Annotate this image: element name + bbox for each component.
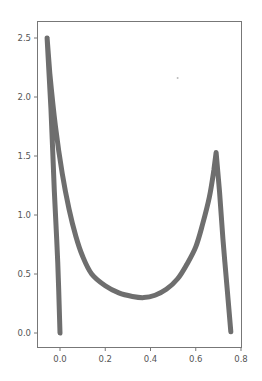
y-tick-label: 1.5 bbox=[17, 151, 31, 161]
x-axis: 0.00.20.40.60.8 bbox=[53, 348, 248, 365]
y-tick-label: 0.5 bbox=[17, 269, 31, 279]
stray-marker bbox=[177, 77, 179, 79]
x-tick-label: 0.0 bbox=[53, 354, 67, 364]
line-chart: 0.00.51.01.52.02.5 0.00.20.40.60.8 bbox=[0, 0, 262, 381]
x-tick-label: 0.6 bbox=[189, 354, 203, 364]
y-tick-label: 1.0 bbox=[17, 210, 31, 220]
y-tick-label: 0.0 bbox=[17, 328, 31, 338]
x-tick-label: 0.8 bbox=[234, 354, 248, 364]
x-tick-label: 0.4 bbox=[144, 354, 158, 364]
y-axis: 0.00.51.01.52.02.5 bbox=[17, 33, 37, 338]
data-line bbox=[47, 38, 231, 333]
y-tick-label: 2.0 bbox=[17, 92, 31, 102]
y-tick-label: 2.5 bbox=[17, 33, 31, 43]
x-tick-label: 0.2 bbox=[98, 354, 112, 364]
